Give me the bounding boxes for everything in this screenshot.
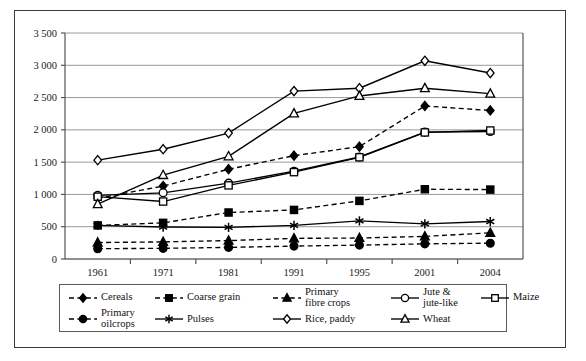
legend-item-pulses[interactable]: Pulses: [154, 312, 272, 326]
legend-item-label: Rice, paddy: [305, 314, 355, 325]
data-point-square-open: [160, 198, 167, 205]
data-point-circle-filled: [225, 243, 233, 251]
legend-item-label: Coarse grain: [187, 292, 240, 303]
legend-item-rice-paddy[interactable]: Rice, paddy: [272, 312, 390, 326]
data-point-circle-filled: [486, 239, 494, 247]
data-point-triangle-filled: [290, 234, 299, 242]
legend-item-maize[interactable]: Maize: [480, 291, 550, 305]
x-tick-label: 1995: [349, 267, 370, 278]
series-jute-jute-like: [94, 128, 494, 200]
data-point-square-open: [492, 294, 499, 301]
legend-item-primary-fibre-crops[interactable]: Primary fibre crops: [272, 287, 390, 308]
data-point-square-filled: [356, 197, 363, 204]
legend-item-label: Wheat: [423, 314, 450, 325]
x-axis-tick-labels: 1961197119811991199520012004: [87, 267, 501, 278]
figure-container: 05001 0001 5002 0002 5003 0003 500 19611…: [0, 0, 586, 361]
y-tick-label: 1 000: [33, 189, 57, 200]
legend-item-label: Primary fibre crops: [305, 287, 350, 308]
data-point-diamond-filled: [487, 106, 495, 115]
data-point-triangle-filled: [486, 228, 495, 236]
y-tick-label: 2 000: [33, 124, 57, 135]
legend-marker-square-open-icon: [480, 291, 510, 305]
x-tick-label: 1981: [218, 267, 239, 278]
legend-grid: CerealsCoarse grainPrimary fibre cropsJu…: [60, 285, 506, 331]
legend-marker-triangle-open-icon: [390, 312, 420, 326]
y-tick-label: 3 000: [33, 60, 57, 71]
legend-marker-diamond-open-icon: [272, 312, 302, 326]
legend-item-coarse-grain[interactable]: Coarse grain: [154, 291, 272, 305]
y-tick-label: 0: [52, 254, 57, 265]
y-tick-label: 2 500: [33, 92, 57, 103]
legend-item-label: Pulses: [187, 314, 214, 325]
data-point-square-open: [225, 182, 232, 189]
data-point-diamond-filled: [356, 142, 364, 151]
data-point-triangle-open: [224, 152, 233, 160]
data-point-diamond-open: [421, 56, 429, 65]
data-point-circle-filled: [356, 241, 364, 249]
y-axis-tick-labels: 05001 0001 5002 0002 5003 0003 500: [33, 28, 57, 265]
data-point-square-open: [421, 129, 428, 136]
data-series-group: [93, 56, 494, 252]
data-point-diamond-open: [290, 87, 298, 96]
data-point-square-filled: [421, 186, 428, 193]
data-point-diamond-filled: [225, 165, 233, 174]
x-tick-label: 2004: [480, 267, 502, 278]
data-point-circle-filled: [290, 242, 298, 250]
data-point-triangle-filled: [224, 236, 233, 244]
data-point-diamond-filled: [421, 101, 429, 110]
series-line: [98, 131, 491, 195]
x-tick-label: 2001: [414, 267, 435, 278]
legend-item-jute-jute-like[interactable]: Jute & jute-like: [390, 287, 480, 308]
data-point-square-filled: [487, 186, 494, 193]
data-point-square-open: [290, 169, 297, 176]
data-point-square-filled: [166, 294, 173, 301]
data-point-diamond-open: [94, 156, 102, 165]
axes: [61, 33, 523, 264]
legend-item-label: Primary oilcrops: [101, 308, 135, 329]
series-pulses: [94, 216, 495, 232]
series-line: [98, 131, 491, 202]
x-tick-label: 1961: [87, 267, 108, 278]
y-tick-label: 1 500: [33, 157, 57, 168]
data-point-diamond-filled: [80, 293, 87, 301]
data-point-square-open: [356, 154, 363, 161]
data-point-square-filled: [225, 209, 232, 216]
legend-marker-triangle-filled-icon: [272, 291, 302, 305]
data-point-diamond-open: [284, 315, 291, 323]
data-point-triangle-open: [420, 83, 429, 91]
data-point-circle-filled: [79, 316, 86, 323]
legend-marker-diamond-filled-icon: [68, 291, 98, 305]
data-point-circle-filled: [421, 240, 429, 248]
legend-marker-circle-open-icon: [390, 291, 420, 305]
data-point-square-open: [487, 127, 494, 134]
legend-marker-square-filled-icon: [154, 291, 184, 305]
data-point-diamond-filled: [290, 151, 298, 160]
data-point-diamond-open: [487, 68, 495, 77]
data-point-circle-open: [159, 189, 167, 197]
legend-item-label: Maize: [513, 292, 539, 303]
chart-legend: CerealsCoarse grainPrimary fibre cropsJu…: [59, 284, 507, 332]
legend-marker-asterisk-icon: [154, 312, 184, 326]
legend-marker-circle-filled-icon: [68, 312, 98, 326]
legend-item-primary-oilcrops[interactable]: Primary oilcrops: [68, 308, 154, 329]
data-point-circle-filled: [94, 245, 102, 253]
data-point-square-filled: [290, 206, 297, 213]
data-point-circle-open: [401, 294, 408, 301]
legend-item-label: Cereals: [101, 292, 133, 303]
x-tick-label: 1971: [153, 267, 174, 278]
y-tick-label: 500: [41, 221, 57, 232]
legend-item-wheat[interactable]: Wheat: [390, 312, 480, 326]
data-point-diamond-open: [159, 145, 167, 154]
data-point-circle-filled: [159, 244, 167, 252]
legend-item-label: Jute & jute-like: [423, 287, 458, 308]
legend-item-cereals[interactable]: Cereals: [68, 291, 154, 305]
x-tick-label: 1991: [284, 267, 305, 278]
y-tick-label: 3 500: [33, 28, 57, 39]
